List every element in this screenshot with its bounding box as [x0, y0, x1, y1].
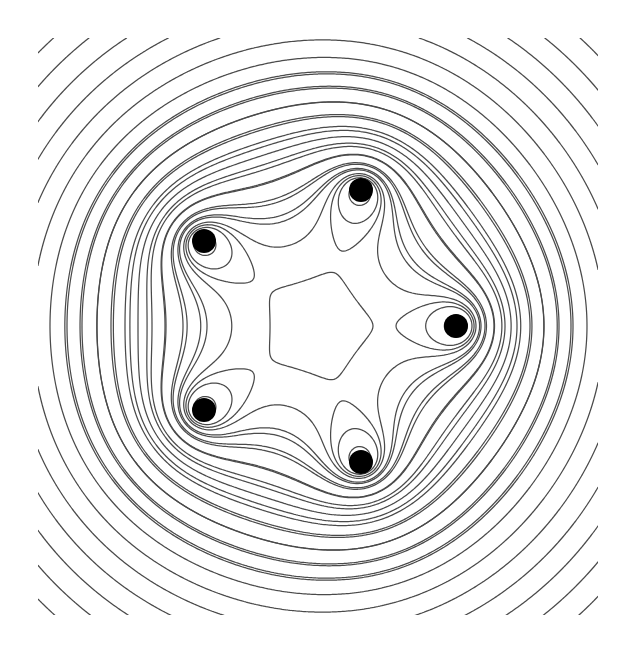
contour-figure: Contour lines of a pentagonal point-vort…: [0, 0, 636, 653]
vortex-dots-layer: [0, 0, 636, 653]
